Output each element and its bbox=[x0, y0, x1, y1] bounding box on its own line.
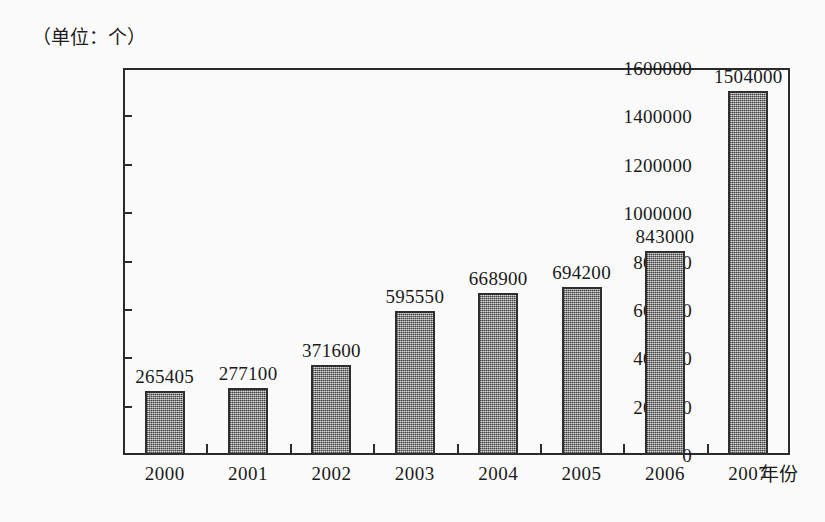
bar-value-label: 843000 bbox=[636, 227, 695, 247]
bar-value-label: 371600 bbox=[302, 341, 361, 361]
x-axis-tick-label: 2002 bbox=[311, 463, 351, 485]
bar-value-label: 277100 bbox=[219, 364, 278, 384]
bar-chart: （单位：个） 年份 020000040000060000080000010000… bbox=[0, 0, 825, 522]
bar-value-label: 265405 bbox=[135, 367, 194, 387]
x-axis-tick-label: 2007 bbox=[728, 463, 768, 485]
x-axis-tick-mark bbox=[540, 444, 542, 455]
x-axis-tick-label: 2005 bbox=[562, 463, 602, 485]
y-axis-tick-label: 1000000 bbox=[623, 204, 692, 223]
x-axis-tick-label: 2004 bbox=[478, 463, 518, 485]
x-axis-tick-mark bbox=[290, 444, 292, 455]
x-axis-tick-label: 2006 bbox=[645, 463, 685, 485]
y-axis-tick-mark bbox=[123, 406, 132, 408]
bar bbox=[395, 311, 435, 455]
y-axis-tick-label: 1400000 bbox=[623, 107, 692, 126]
y-axis-tick-mark bbox=[123, 261, 132, 263]
bar-value-label: 694200 bbox=[552, 263, 611, 283]
bar bbox=[478, 293, 518, 455]
x-axis-tick-label: 2003 bbox=[395, 463, 435, 485]
bar-value-label: 595550 bbox=[385, 287, 444, 307]
bar-value-label: 668900 bbox=[469, 269, 528, 289]
bar bbox=[311, 365, 351, 455]
x-axis-tick-label: 2000 bbox=[145, 463, 185, 485]
x-axis-tick-mark bbox=[623, 444, 625, 455]
bar bbox=[562, 287, 602, 455]
y-axis-tick-mark bbox=[123, 115, 132, 117]
bar bbox=[728, 91, 768, 455]
y-axis-tick-mark bbox=[123, 212, 132, 214]
x-axis-tick-label: 2001 bbox=[228, 463, 268, 485]
y-axis-tick-mark bbox=[123, 164, 132, 166]
x-axis-tick-mark bbox=[206, 444, 208, 455]
y-axis-tick-label: 1200000 bbox=[623, 155, 692, 174]
bar-value-label: 1504000 bbox=[714, 67, 783, 87]
x-axis-tick-mark bbox=[707, 444, 709, 455]
bar bbox=[145, 391, 185, 455]
y-axis-tick-mark bbox=[123, 309, 132, 311]
bar bbox=[228, 388, 268, 455]
unit-label: （单位：个） bbox=[32, 26, 146, 48]
x-axis-tick-mark bbox=[373, 444, 375, 455]
y-axis-tick-mark bbox=[123, 357, 132, 359]
y-axis-tick-label: 1600000 bbox=[623, 59, 692, 78]
bar bbox=[645, 251, 685, 455]
x-axis-tick-mark bbox=[457, 444, 459, 455]
